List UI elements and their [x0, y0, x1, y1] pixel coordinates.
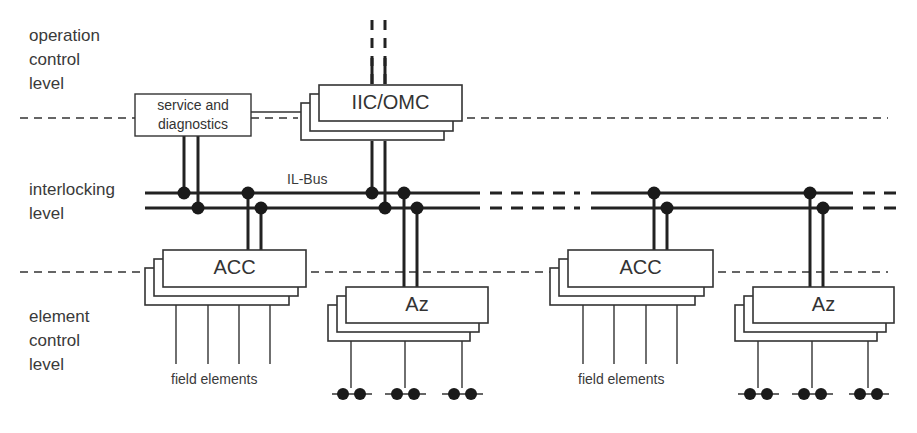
- service-label-line: service and: [135, 96, 251, 115]
- az-left-points: [332, 341, 483, 394]
- iic-uplink: [372, 20, 385, 84]
- level-label-line: level: [29, 202, 115, 226]
- field-elements-right-label: field elements: [578, 371, 664, 387]
- il-bus-label: IL-Bus: [287, 171, 327, 187]
- level-label-operation: operation control level: [29, 24, 100, 96]
- acc-right-label: ACC: [568, 256, 713, 279]
- level-label-line: level: [29, 353, 89, 377]
- level-label-interlocking: interlocking level: [29, 178, 115, 226]
- az-left-label: Az: [346, 293, 488, 316]
- level-label-line: level: [29, 72, 100, 96]
- az-right-points: [738, 341, 889, 394]
- bus-junctions: [178, 187, 830, 215]
- level-label-line: control: [29, 329, 89, 353]
- level-label-element: element control level: [29, 305, 89, 377]
- service-label-line: diagnostics: [135, 115, 251, 134]
- level-dividers: [20, 118, 888, 272]
- level-label-line: element: [29, 305, 89, 329]
- level-label-line: control: [29, 48, 100, 72]
- acc-left-label: ACC: [163, 256, 306, 279]
- service-diagnostics-label: service and diagnostics: [135, 96, 251, 134]
- field-elements-left-label: field elements: [171, 371, 257, 387]
- level-label-line: operation: [29, 24, 100, 48]
- level-label-line: interlocking: [29, 178, 115, 202]
- iic-omc-label: IIC/OMC: [319, 91, 462, 114]
- diagram-canvas: [0, 0, 917, 433]
- az-right-label: Az: [753, 293, 894, 316]
